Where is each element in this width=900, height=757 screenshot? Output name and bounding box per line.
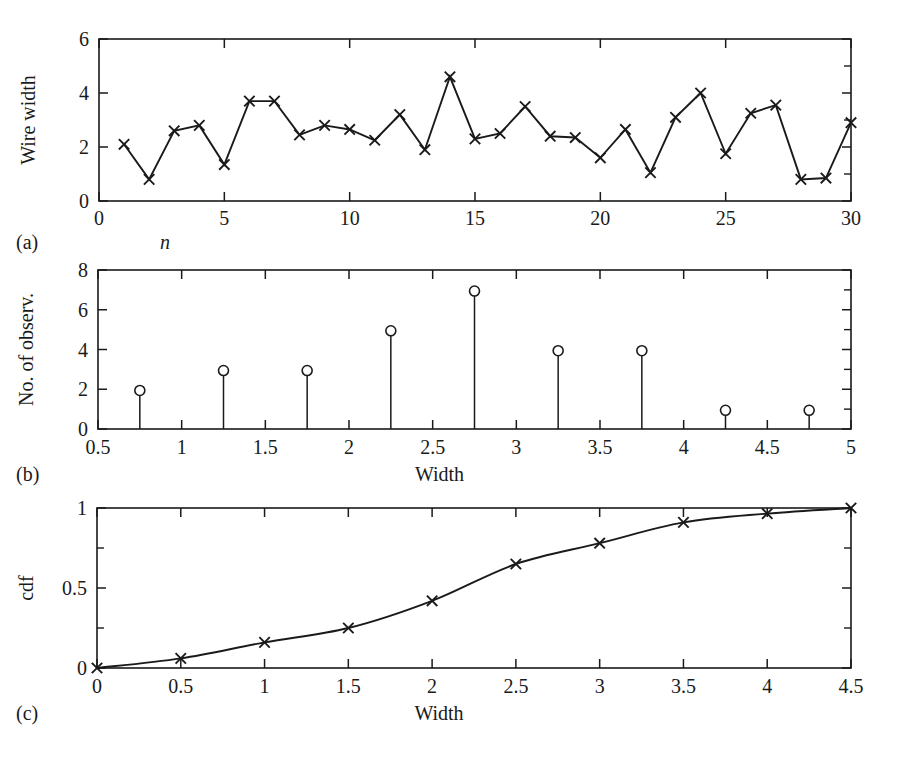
x-tick-label-c: 4.5 — [839, 675, 864, 697]
x-tick-label-b: 1.5 — [253, 436, 278, 458]
panel-b-svg: 0.511.522.533.544.5502468No. of observ.W… — [0, 240, 900, 490]
x-tick-label-a: 0 — [94, 207, 104, 229]
series-line-a — [124, 77, 851, 180]
x-tick-label-a: 25 — [716, 207, 736, 229]
figure-wire-width-statistics: 0510152025300246Wire widthn(a) 0.511.522… — [0, 0, 900, 757]
stem-item — [302, 366, 312, 429]
data-point-marker — [645, 167, 655, 177]
x-tick-label-c: 1.5 — [336, 675, 361, 697]
x-tick-label-b: 3.5 — [588, 436, 613, 458]
x-tick-label-c: 4 — [762, 675, 772, 697]
x-tick-label-b: 5 — [846, 436, 856, 458]
y-tick-label-b: 4 — [78, 339, 88, 361]
stem-head-circle — [804, 405, 814, 415]
x-tick-label-c: 0 — [92, 675, 102, 697]
x-tick-label-a: 20 — [590, 207, 610, 229]
panel-tag-c: (c) — [16, 702, 38, 725]
stem-head-circle — [553, 346, 563, 356]
panel-b-histogram-stem: 0.511.522.533.544.5502468No. of observ.W… — [0, 240, 900, 490]
y-tick-label-a: 6 — [79, 28, 89, 50]
x-tick-label-b: 2 — [344, 436, 354, 458]
x-tick-label-b: 3 — [511, 436, 521, 458]
data-point-marker — [420, 145, 430, 155]
data-point-marker — [119, 139, 129, 149]
stem-item — [804, 405, 814, 429]
y-tick-label-a: 4 — [79, 82, 89, 104]
y-axis-label-c: cdf — [15, 575, 37, 601]
data-point-marker — [445, 72, 455, 82]
stem-item — [470, 286, 480, 429]
data-point-marker — [511, 559, 521, 569]
data-point-marker — [294, 130, 304, 140]
series-line-c — [97, 508, 851, 668]
x-tick-label-c: 3.5 — [671, 675, 696, 697]
y-tick-label-c: 1 — [77, 497, 87, 519]
plot-frame-c — [97, 508, 851, 668]
data-point-marker — [720, 149, 730, 159]
y-tick-label-b: 0 — [78, 418, 88, 440]
stem-item — [386, 326, 396, 429]
y-tick-label-a: 0 — [79, 190, 89, 212]
x-tick-label-a: 30 — [841, 207, 861, 229]
data-point-marker — [695, 88, 705, 98]
stem-item — [553, 346, 563, 429]
y-tick-label-c: 0.5 — [62, 577, 87, 599]
x-tick-label-c: 2.5 — [503, 675, 528, 697]
y-tick-label-b: 2 — [78, 378, 88, 400]
data-point-marker — [427, 596, 437, 606]
x-axis-label-c: Width — [414, 702, 463, 724]
y-axis-label-a: Wire width — [17, 75, 39, 165]
stem-item — [721, 405, 731, 429]
stem-head-circle — [637, 346, 647, 356]
y-tick-label-b: 6 — [78, 299, 88, 321]
panel-a-svg: 0510152025300246Wire widthn(a) — [0, 0, 900, 255]
panel-c-cdf: 00.511.522.533.544.500.51cdfWidth(c) — [0, 478, 900, 757]
plot-frame-a — [99, 39, 851, 201]
stem-head-circle — [135, 385, 145, 395]
y-tick-label-a: 2 — [79, 136, 89, 158]
y-tick-label-b: 8 — [78, 259, 88, 281]
x-tick-label-b: 1 — [177, 436, 187, 458]
x-tick-label-c: 1 — [260, 675, 270, 697]
x-tick-label-b: 2.5 — [420, 436, 445, 458]
stem-head-circle — [470, 286, 480, 296]
x-tick-label-b: 0.5 — [86, 436, 111, 458]
x-tick-label-b: 4.5 — [755, 436, 780, 458]
stem-head-circle — [721, 405, 731, 415]
y-tick-label-c: 0 — [77, 657, 87, 679]
data-point-marker — [395, 109, 405, 119]
data-point-marker — [771, 100, 781, 110]
x-tick-label-c: 3 — [595, 675, 605, 697]
y-axis-label-b: No. of observ. — [15, 293, 37, 406]
stem-head-circle — [219, 366, 229, 376]
stem-head-circle — [386, 326, 396, 336]
panel-c-svg: 00.511.522.533.544.500.51cdfWidth(c) — [0, 478, 900, 757]
x-tick-label-a: 15 — [465, 207, 485, 229]
x-tick-label-a: 5 — [219, 207, 229, 229]
data-point-marker — [620, 124, 630, 134]
stem-item — [219, 366, 229, 429]
data-point-marker — [219, 159, 229, 169]
x-tick-label-c: 2 — [427, 675, 437, 697]
panel-a-time-series: 0510152025300246Wire widthn(a) — [0, 0, 900, 255]
data-point-marker — [144, 174, 154, 184]
stem-head-circle — [302, 366, 312, 376]
data-point-marker — [370, 135, 380, 145]
stem-item — [135, 385, 145, 429]
data-point-marker — [595, 153, 605, 163]
data-point-marker — [670, 112, 680, 122]
data-point-marker — [746, 108, 756, 118]
x-tick-label-a: 10 — [340, 207, 360, 229]
x-tick-label-b: 4 — [679, 436, 689, 458]
stem-item — [637, 346, 647, 429]
data-point-marker — [520, 101, 530, 111]
x-tick-label-c: 0.5 — [168, 675, 193, 697]
